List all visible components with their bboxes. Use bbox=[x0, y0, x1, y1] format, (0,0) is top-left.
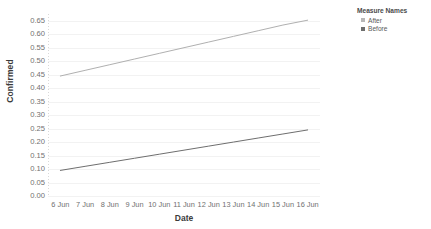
x-axis-title: Date bbox=[48, 213, 320, 223]
legend-item-after[interactable]: After bbox=[357, 17, 429, 24]
legend-item-before[interactable]: Before bbox=[357, 25, 429, 32]
legend-swatch-icon bbox=[361, 18, 365, 22]
legend: Measure Names AfterBefore bbox=[357, 7, 429, 34]
line-chart: Confirmed 0.000.050.100.150.200.250.300.… bbox=[0, 0, 431, 229]
plot-area bbox=[0, 0, 431, 229]
legend-item-label: After bbox=[368, 17, 382, 24]
legend-title: Measure Names bbox=[357, 7, 429, 14]
series-line-after bbox=[60, 20, 307, 76]
series-line-before bbox=[60, 130, 307, 170]
legend-item-label: Before bbox=[368, 25, 387, 32]
legend-swatch-icon bbox=[361, 27, 365, 31]
legend-items: AfterBefore bbox=[357, 17, 429, 33]
x-tick-label: 16 Jun bbox=[288, 200, 328, 209]
